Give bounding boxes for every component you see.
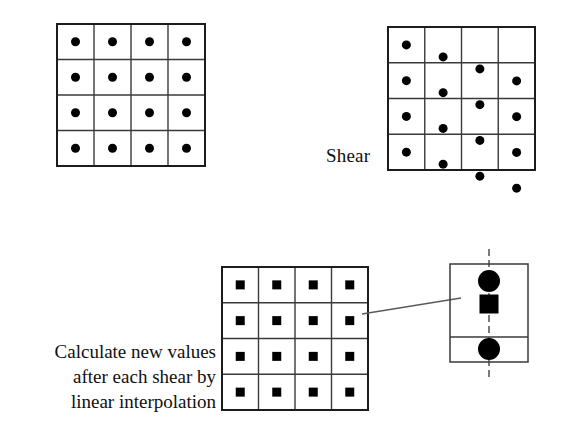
original-sample-grid-marker-r4c3 — [145, 144, 154, 153]
resampled-value-grid-marker-r4c3 — [309, 388, 318, 397]
original-sample-grid — [57, 24, 205, 166]
resampled-value-grid-marker-r3c2 — [272, 352, 281, 361]
sheared-sample-grid-marker-r3c2 — [439, 124, 448, 133]
resampled-value-grid-marker-r2c1 — [236, 316, 245, 325]
original-sample-grid-marker-r1c2 — [108, 37, 117, 46]
original-sample-grid-marker-r1c1 — [71, 37, 80, 46]
resampled-value-grid-marker-r4c2 — [272, 388, 281, 397]
original-sample-grid-marker-r2c1 — [71, 73, 80, 82]
original-sample-grid-marker-r3c4 — [182, 108, 191, 117]
resampled-value-grid-marker-r4c1 — [236, 388, 245, 397]
shear-label: Shear — [326, 145, 370, 167]
original-sample-grid-marker-r2c2 — [108, 73, 117, 82]
original-sample-grid-marker-r4c2 — [108, 144, 117, 153]
sheared-sample-grid-marker-r3c4 — [512, 148, 521, 157]
original-sample-grid-marker-r1c3 — [145, 37, 154, 46]
sheared-sample-grid-marker-r2c1 — [402, 76, 411, 85]
original-sample-grid-marker-r1c4 — [182, 37, 191, 46]
sheared-sample-grid — [388, 27, 535, 193]
sheared-sample-grid-marker-r4c1 — [402, 148, 411, 157]
resampled-value-grid-marker-r3c3 — [309, 352, 318, 361]
resampled-value-grid-marker-r2c3 — [309, 316, 318, 325]
sheared-sample-grid-marker-r1c3 — [475, 64, 484, 73]
resampled-value-grid-marker-r1c4 — [345, 280, 354, 289]
sheared-sample-grid-marker-r4c2 — [439, 160, 448, 169]
resampled-value-grid-marker-r1c2 — [272, 280, 281, 289]
detail-interpolated-square — [480, 295, 499, 314]
sheared-sample-grid-marker-r1c4 — [512, 76, 521, 85]
interpolation-caption-line-1: Calculate new values — [8, 339, 216, 364]
sheared-sample-grid-marker-r1c2 — [439, 52, 448, 61]
resampled-value-grid-marker-r1c3 — [309, 280, 318, 289]
original-sample-grid-marker-r3c1 — [71, 108, 80, 117]
interpolation-caption: Calculate new values after each shear by… — [8, 339, 216, 414]
original-sample-grid-marker-r2c3 — [145, 73, 154, 82]
resampled-value-grid-marker-r3c4 — [345, 352, 354, 361]
original-sample-grid-marker-r2c4 — [182, 73, 191, 82]
sheared-sample-grid-marker-r4c4 — [512, 184, 521, 193]
resampled-value-grid-marker-r3c1 — [236, 352, 245, 361]
original-sample-grid-marker-r4c1 — [71, 144, 80, 153]
interpolation-detail-callout — [450, 249, 528, 377]
resampled-value-grid-marker-r2c4 — [345, 316, 354, 325]
sheared-sample-grid-marker-r4c3 — [475, 172, 484, 181]
sheared-sample-grid-marker-r2c3 — [475, 100, 484, 109]
resampled-value-grid-marker-r2c2 — [272, 316, 281, 325]
sheared-sample-grid-marker-r2c2 — [439, 88, 448, 97]
sheared-sample-grid-marker-r3c1 — [402, 112, 411, 121]
original-sample-grid-marker-r3c3 — [145, 108, 154, 117]
original-sample-grid-marker-r3c2 — [108, 108, 117, 117]
callout-leader-line — [362, 298, 461, 314]
detail-upper-sample-circle — [478, 270, 500, 292]
sheared-sample-grid-marker-r1c1 — [402, 40, 411, 49]
interpolation-caption-line-2: after each shear by — [8, 364, 216, 389]
resampled-value-grid — [222, 267, 368, 410]
sheared-sample-grid-marker-r2c4 — [512, 112, 521, 121]
sheared-sample-grid-marker-r3c3 — [475, 136, 484, 145]
resampled-value-grid-marker-r1c1 — [236, 280, 245, 289]
original-sample-grid-marker-r4c4 — [182, 144, 191, 153]
resampled-value-grid-marker-r4c4 — [345, 388, 354, 397]
detail-lower-sample-circle — [478, 338, 500, 360]
interpolation-caption-line-3: linear interpolation — [8, 389, 216, 414]
